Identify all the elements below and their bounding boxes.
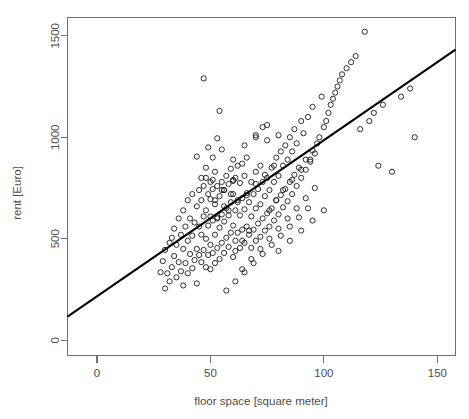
x-tick-label: 50	[204, 367, 217, 379]
chart-canvas: 050010001500 050100150 floor space [squa…	[0, 0, 469, 419]
y-axis-title: rent [Euro]	[11, 166, 23, 220]
y-tick-label: 500	[50, 229, 62, 248]
x-axis-title: floor space [square meter]	[194, 395, 328, 407]
x-tick-label: 0	[94, 367, 100, 379]
y-tick-label: 1500	[50, 23, 62, 49]
figure-background	[0, 0, 469, 419]
scatter-plot-figure: 050010001500 050100150 floor space [squa…	[0, 0, 469, 419]
x-tick-label: 100	[314, 367, 333, 379]
x-tick-label: 150	[428, 367, 447, 379]
y-tick-label: 1000	[50, 124, 62, 150]
y-tick-label: 0	[50, 337, 62, 343]
